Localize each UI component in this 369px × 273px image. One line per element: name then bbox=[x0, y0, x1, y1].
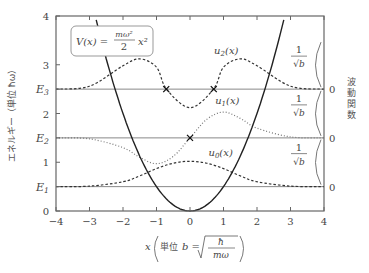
right-axis-label-char: 波 bbox=[347, 76, 356, 87]
x-axis-label-paren-right bbox=[240, 236, 244, 262]
right-axis-label-char: 数 bbox=[347, 109, 356, 120]
energy-level-label-1: E1 bbox=[35, 181, 49, 195]
x-axis-label-var: x bbox=[145, 241, 151, 252]
x-tick-label: −3 bbox=[82, 216, 97, 227]
scale-bracket-icon bbox=[316, 42, 322, 87]
y-tick-label: 1 bbox=[43, 157, 49, 168]
x-axis-label-unit-var: b = bbox=[182, 241, 200, 252]
x-tick-label: 2 bbox=[254, 216, 260, 227]
wavefunction-label-0: u0(x) bbox=[208, 147, 232, 160]
right-axis-label-char: 動 bbox=[347, 88, 356, 98]
y-tick-label: 4 bbox=[43, 11, 49, 22]
formula-lhs: V(x) = bbox=[76, 36, 108, 47]
y-tick-label: 3 bbox=[43, 60, 49, 71]
x-tick-label: 1 bbox=[220, 216, 226, 227]
scale-label-denominator: √b bbox=[293, 59, 305, 69]
x-tick-label: −1 bbox=[149, 216, 164, 227]
scale-bracket-icon bbox=[316, 140, 322, 185]
scale-label-denominator: √b bbox=[293, 108, 305, 118]
wavefunction-label-2: u2(x) bbox=[214, 45, 238, 58]
energy-level-label-3: E3 bbox=[35, 83, 49, 97]
energy-level-chart: −4−3−2−10123401234E1E2E301√b01√b01√bu0(x… bbox=[0, 0, 369, 273]
scale-bracket-icon bbox=[316, 91, 322, 136]
energy-level-label-2: E2 bbox=[35, 132, 49, 146]
scale-label-numerator: 1 bbox=[296, 44, 302, 55]
x-tick-label: 4 bbox=[321, 216, 327, 227]
wavefunction-2-curve bbox=[56, 59, 324, 108]
y-tick-label: 0 bbox=[43, 206, 49, 217]
formula-denominator: 2 bbox=[121, 41, 127, 52]
x-tick-label: −4 bbox=[49, 216, 64, 227]
x-axis-label-denominator: mω bbox=[213, 250, 230, 260]
formula-numerator: mω² bbox=[115, 30, 132, 39]
x-axis-label-numerator: ħ bbox=[218, 237, 224, 247]
right-zero-label: 0 bbox=[329, 84, 335, 95]
right-zero-label: 0 bbox=[329, 182, 335, 193]
scale-label-denominator: √b bbox=[293, 157, 305, 167]
scale-label-numerator: 1 bbox=[296, 142, 302, 153]
formula-rhs: x² bbox=[138, 36, 148, 47]
x-axis-label-paren-left bbox=[155, 236, 159, 262]
wavefunction-0-curve bbox=[56, 161, 324, 186]
scale-label-numerator: 1 bbox=[296, 93, 302, 104]
right-axis-label-char: 関 bbox=[347, 99, 356, 109]
x-tick-label: −2 bbox=[116, 216, 131, 227]
x-axis-label-unit-prefix: 単位 bbox=[160, 241, 178, 252]
y-tick-label: 2 bbox=[43, 109, 49, 120]
x-tick-label: 3 bbox=[287, 216, 293, 227]
y-axis-label: エネルギー（単位 ħω） bbox=[6, 65, 17, 163]
wavefunction-label-1: u1(x) bbox=[215, 95, 239, 108]
right-zero-label: 0 bbox=[329, 133, 335, 144]
x-tick-label: 0 bbox=[187, 216, 193, 227]
